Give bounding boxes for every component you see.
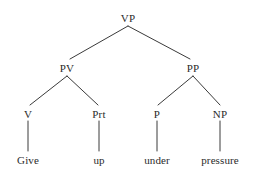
edge-pv-prt xyxy=(67,76,98,105)
tree-edges-layer xyxy=(0,0,256,175)
terminal-label-pressure: pressure xyxy=(201,155,238,166)
node-label-pp: PP xyxy=(187,63,200,74)
terminal-label-under: under xyxy=(144,155,170,166)
node-label-p: P xyxy=(154,109,160,120)
syntax-tree-figure: VP PV PP V Prt P NP Give up under pressu… xyxy=(0,0,256,175)
edge-pv-v xyxy=(30,76,67,105)
terminal-label-up: up xyxy=(93,155,104,166)
node-label-np: NP xyxy=(213,109,227,120)
edge-pp-p xyxy=(158,76,193,105)
node-label-vp: VP xyxy=(121,13,135,24)
node-label-prt: Prt xyxy=(92,109,105,120)
edge-vp-pp xyxy=(128,26,190,59)
node-label-pv: PV xyxy=(60,63,74,74)
terminal-label-give: Give xyxy=(17,155,39,166)
node-label-v: V xyxy=(24,109,32,120)
edge-pp-np xyxy=(193,76,220,105)
edge-vp-pv xyxy=(70,26,128,59)
